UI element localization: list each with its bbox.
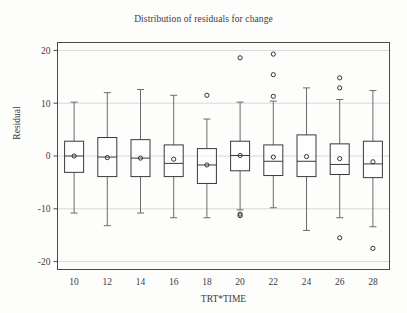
outlier-point (371, 246, 375, 250)
boxplot-item (131, 89, 150, 213)
outlier-point (205, 93, 209, 97)
box-iqr (231, 141, 250, 171)
x-axis-ticks: 10121416182022242628 (69, 277, 378, 287)
box-iqr (65, 141, 84, 172)
box-iqr (197, 149, 216, 184)
box-iqr (330, 144, 349, 175)
boxplot-item (98, 93, 117, 226)
box-iqr (297, 135, 316, 177)
boxplot-item (330, 76, 349, 240)
x-tick-label: 20 (235, 277, 245, 287)
x-tick-label: 28 (368, 277, 378, 287)
x-tick-label: 24 (302, 277, 312, 287)
x-tick-label: 26 (335, 277, 345, 287)
chart-figure: Distribution of residuals for change Res… (0, 0, 407, 313)
outlier-point (271, 52, 275, 56)
x-tick-label: 14 (136, 277, 146, 287)
x-tick-label: 18 (202, 277, 212, 287)
y-tick-label: 10 (41, 99, 51, 109)
y-tick-label: -10 (38, 204, 51, 214)
box-iqr (164, 145, 183, 177)
boxplot-item (164, 95, 183, 217)
boxplot-item (264, 52, 283, 208)
outlier-point (238, 56, 242, 60)
boxplot-item (363, 91, 382, 251)
x-tick-label: 22 (269, 277, 279, 287)
outlier-point (338, 76, 342, 80)
y-tick-label: 0 (46, 151, 51, 161)
outlier-point (338, 236, 342, 240)
box-iqr (264, 145, 283, 176)
y-tick-label: -20 (38, 257, 51, 267)
x-tick-label: 12 (103, 277, 113, 287)
outlier-point (338, 86, 342, 90)
y-tick-label: 20 (41, 46, 51, 56)
x-tick-label: 10 (69, 277, 79, 287)
outlier-point (271, 73, 275, 77)
outlier-point (271, 94, 275, 98)
boxplot-item (65, 102, 84, 213)
boxplot-canvas: 20100-10-20 10121416182022242628 (0, 0, 407, 313)
y-axis-ticks: 20100-10-20 (38, 46, 58, 267)
boxplot-item (231, 56, 250, 218)
boxplot-item (197, 93, 216, 218)
x-tick-label: 16 (169, 277, 179, 287)
box-series (65, 52, 383, 250)
